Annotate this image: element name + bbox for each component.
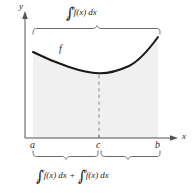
- plus-operator: +: [70, 170, 75, 180]
- shaded-region: [33, 37, 158, 138]
- integrand-bottom-second: f(x): [86, 170, 99, 180]
- bottom-integral-expression: ∫ c a f(x)dx+∫ b c f(x)dx: [36, 169, 109, 184]
- differential-bottom-second: dx: [100, 170, 109, 180]
- y-axis-label: y: [19, 2, 23, 11]
- y-axis-arrowhead: [22, 11, 28, 19]
- x-axis-label: x: [182, 132, 186, 141]
- integral-additivity-figure: y x f a c b ∫ b a f(x)dx ∫ c a f(x)dx+∫ …: [0, 0, 192, 193]
- integral-sign-bottom-first: ∫ c a: [36, 169, 44, 184]
- integral-sign-top: ∫ b a: [66, 6, 74, 21]
- tick-label-b: b: [155, 140, 160, 150]
- differential-top: dx: [88, 7, 97, 17]
- integral-upper-limit-top: b: [72, 5, 75, 11]
- integral-upper-limit-bottom-first: c: [42, 168, 45, 174]
- top-integral-expression: ∫ b a f(x)dx: [66, 6, 97, 21]
- integral-lower-limit-top: a: [67, 14, 70, 20]
- figure-canvas: [0, 0, 192, 193]
- integrand-bottom-first: f(x): [44, 170, 57, 180]
- brace-bottom-a-to-c: [33, 151, 98, 159]
- brace-bottom-c-to-b: [101, 151, 160, 159]
- integral-upper-limit-bottom-second: b: [84, 168, 87, 174]
- brace-top-a-to-b: [33, 26, 160, 34]
- integral-sign-bottom-second: ∫ b c: [78, 169, 86, 184]
- integral-lower-limit-bottom-first: a: [37, 177, 40, 183]
- integrand-top: f(x): [74, 7, 87, 17]
- differential-bottom-first: dx: [58, 170, 67, 180]
- tick-label-c: c: [96, 140, 100, 150]
- curve-label-f: f: [59, 44, 62, 54]
- integral-lower-limit-bottom-second: c: [79, 177, 82, 183]
- tick-label-a: a: [30, 140, 35, 150]
- x-axis-arrowhead: [170, 135, 178, 141]
